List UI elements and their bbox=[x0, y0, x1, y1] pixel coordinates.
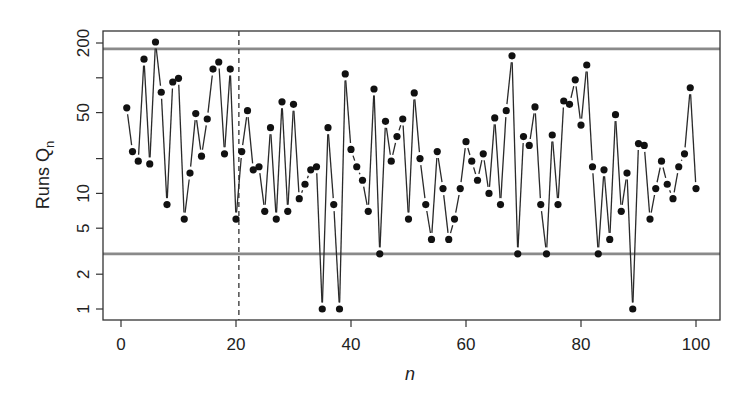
series-segment bbox=[374, 95, 379, 247]
data-point bbox=[261, 208, 268, 215]
data-point bbox=[336, 305, 343, 312]
data-point bbox=[612, 111, 619, 118]
data-point bbox=[370, 85, 377, 92]
series-segment bbox=[674, 173, 677, 192]
data-point bbox=[181, 215, 188, 222]
data-point bbox=[554, 201, 561, 208]
data-point bbox=[382, 118, 389, 125]
data-point bbox=[514, 250, 521, 257]
data-point bbox=[681, 150, 688, 157]
data-point bbox=[531, 103, 538, 110]
y-tick-label: 5 bbox=[74, 223, 93, 232]
series-segment bbox=[346, 80, 351, 143]
series-segment bbox=[364, 187, 367, 205]
series-segment bbox=[334, 211, 339, 302]
series-segment bbox=[622, 179, 626, 204]
data-point bbox=[577, 121, 584, 128]
x-tick-label: 100 bbox=[682, 335, 710, 354]
data-point bbox=[388, 158, 395, 165]
data-point bbox=[255, 163, 262, 170]
y-tick-label: 1 bbox=[74, 304, 93, 313]
series-segment bbox=[444, 195, 448, 233]
series-segment bbox=[294, 111, 299, 192]
runs-chart: 020406080100 1251050200 n Runs Qn bbox=[0, 0, 755, 399]
series-segment bbox=[128, 114, 132, 145]
data-point bbox=[606, 236, 613, 243]
series-segment bbox=[369, 95, 374, 204]
data-point bbox=[641, 142, 648, 149]
data-point bbox=[468, 158, 475, 165]
series-segment bbox=[605, 176, 610, 233]
data-point bbox=[284, 208, 291, 215]
series-segment bbox=[139, 66, 144, 155]
x-tick-label: 0 bbox=[116, 335, 125, 354]
data-point bbox=[669, 195, 676, 202]
series-segment bbox=[353, 156, 355, 161]
series-segment bbox=[553, 141, 558, 198]
series-segment bbox=[542, 211, 546, 247]
series-segment bbox=[657, 168, 660, 183]
data-point bbox=[658, 158, 665, 165]
series-segment bbox=[633, 150, 638, 302]
series-segment bbox=[219, 68, 224, 147]
data-point bbox=[267, 124, 274, 131]
y-axis-title: Runs Qn bbox=[33, 141, 57, 209]
data-point bbox=[462, 138, 469, 145]
x-axis-title: n bbox=[405, 364, 415, 384]
data-point bbox=[158, 89, 165, 96]
data-point bbox=[175, 75, 182, 82]
data-point bbox=[244, 107, 251, 114]
data-point bbox=[600, 166, 607, 173]
data-point bbox=[583, 61, 590, 68]
series-segment bbox=[582, 71, 587, 118]
data-point bbox=[227, 65, 234, 72]
data-point bbox=[393, 133, 400, 140]
data-point bbox=[451, 215, 458, 222]
data-point bbox=[445, 236, 452, 243]
data-point bbox=[405, 215, 412, 222]
series-segment bbox=[150, 48, 155, 157]
series-segment bbox=[307, 176, 308, 178]
series-segment bbox=[468, 148, 470, 155]
data-point bbox=[330, 201, 337, 208]
data-point bbox=[376, 250, 383, 257]
series-segment bbox=[558, 107, 563, 198]
series-segment bbox=[144, 66, 149, 158]
data-point bbox=[543, 250, 550, 257]
data-point bbox=[204, 115, 211, 122]
series-segment bbox=[610, 121, 615, 233]
data-point bbox=[342, 70, 349, 77]
data-point bbox=[457, 185, 464, 192]
data-point bbox=[359, 177, 366, 184]
data-point bbox=[474, 177, 481, 184]
series-segment bbox=[415, 99, 420, 152]
data-point bbox=[428, 236, 435, 243]
data-point bbox=[595, 250, 602, 257]
series-segment bbox=[530, 113, 534, 139]
series-segment bbox=[202, 125, 206, 149]
series-segment bbox=[328, 134, 333, 198]
series-segment bbox=[599, 176, 604, 247]
data-point bbox=[526, 142, 533, 149]
data-point bbox=[347, 146, 354, 153]
series-segment bbox=[162, 99, 167, 198]
data-point bbox=[365, 208, 372, 215]
series-segment bbox=[167, 88, 172, 198]
data-point bbox=[232, 215, 239, 222]
data-point bbox=[572, 76, 579, 83]
data-point bbox=[508, 52, 515, 59]
y-axis: 1251050200 bbox=[74, 29, 103, 314]
series-segment bbox=[571, 86, 574, 98]
data-point bbox=[353, 163, 360, 170]
data-point bbox=[313, 163, 320, 170]
series-segment bbox=[288, 111, 293, 205]
series-segment bbox=[489, 124, 494, 187]
data-point bbox=[186, 169, 193, 176]
series-segment bbox=[663, 167, 666, 177]
y-tick-label: 10 bbox=[74, 184, 93, 203]
series-segment bbox=[501, 117, 506, 198]
series-segment bbox=[461, 148, 465, 182]
data-point bbox=[273, 215, 280, 222]
series-segment bbox=[593, 173, 598, 247]
data-point bbox=[198, 153, 205, 160]
